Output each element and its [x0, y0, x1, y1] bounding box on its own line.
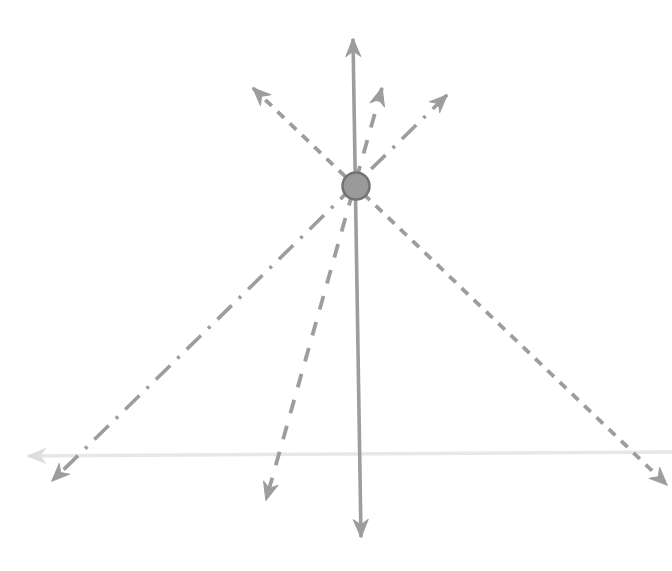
ball [343, 173, 370, 200]
vector-long-dash-steep [266, 88, 382, 500]
vector-diagram-canvas [0, 0, 672, 571]
vector-dashed-diagonal [253, 88, 667, 485]
vector-diagram [0, 0, 672, 571]
ground-line [28, 452, 672, 456]
vector-solid-vertical [353, 39, 361, 537]
vector-dash-dot-diagonal [52, 95, 447, 481]
